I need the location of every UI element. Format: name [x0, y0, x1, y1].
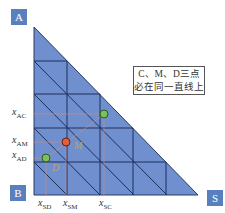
annotation-box: C、M、D三点 必在同一直线上 — [133, 66, 205, 95]
vertex-s-label: S — [207, 190, 223, 206]
y-label-ad: xAD — [12, 149, 27, 163]
annotation-line-1: C、M、D三点 — [134, 68, 204, 81]
annotation-line-2: 必在同一直线上 — [134, 81, 204, 94]
point-c — [100, 110, 108, 118]
point-m-label: M — [74, 140, 82, 151]
y-label-ac: xAC — [12, 106, 26, 120]
x-label-sc: xSC — [99, 197, 112, 211]
ternary-diagram — [0, 0, 225, 213]
point-d — [42, 154, 50, 162]
x-label-sd: xSD — [38, 197, 51, 211]
vertex-a-label: A — [11, 9, 27, 25]
y-label-am: xAM — [12, 134, 28, 148]
point-m — [62, 138, 70, 146]
x-label-sm: xSM — [63, 197, 78, 211]
vertex-b-label: B — [10, 185, 26, 201]
point-d-label: D — [52, 162, 59, 173]
